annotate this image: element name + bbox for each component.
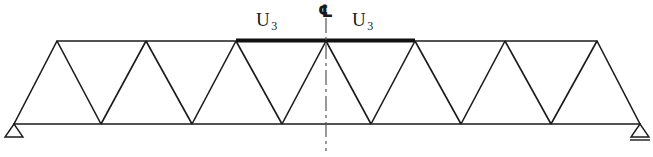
roller-support-triangle [631,124,649,137]
web-diagonal-1 [14,41,57,124]
web-diagonal-9 [371,41,415,124]
web-diagonal-13 [551,41,597,124]
centerline-symbol-icon: ℄ [318,3,333,20]
member-label-u3-right-text: U [352,9,366,30]
member-label-u3-right-subscript: 3 [367,19,374,33]
member-label-u3-left-text: U [256,9,270,30]
web-diagonal-8 [326,41,371,124]
web-diagonal-14 [597,41,640,124]
web-diagonal-10 [415,41,461,124]
member-label-u3-left-subscript: 3 [271,19,278,33]
web-diagonal-11 [461,41,505,124]
web-diagonal-4 [146,41,192,124]
web-diagonal-3 [101,41,146,124]
truss-diagram-figure: U3 U3 ℄ [0,0,653,157]
web-diagonal-12 [505,41,551,124]
web-diagonal-2 [57,41,101,124]
web-diagonal-5 [192,41,236,124]
member-label-u3-left: U3 [256,10,277,29]
pin-support-triangle [5,124,23,137]
truss-drawing [0,0,653,157]
member-label-u3-right: U3 [352,10,373,29]
web-diagonal-7 [282,41,326,124]
web-diagonal-6 [236,41,282,124]
